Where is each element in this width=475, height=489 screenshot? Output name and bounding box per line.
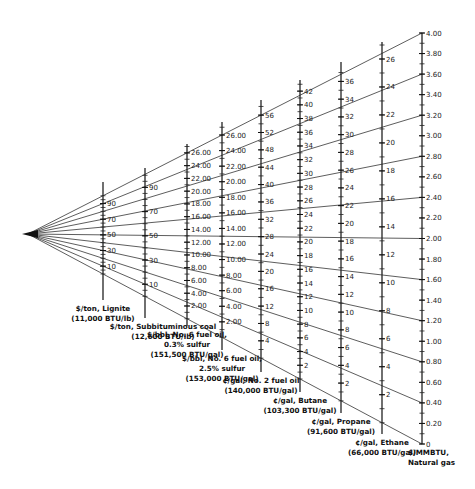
svg-text:¢/gal, Ethane: ¢/gal, Ethane: [355, 438, 409, 447]
tick-label: 8: [265, 320, 269, 328]
svg-text:¢/gal, Butane: ¢/gal, Butane: [273, 396, 327, 405]
tick-label: 2.60: [426, 173, 442, 181]
tick-label: 2: [386, 391, 390, 399]
tick-label: 26: [304, 197, 313, 205]
tick-label: 36: [345, 78, 354, 86]
tick-label: 32: [265, 216, 274, 224]
tick-label: 24: [386, 83, 395, 91]
svg-text:$/bbl, No. 6 fuel oil,: $/bbl, No. 6 fuel oil,: [147, 330, 227, 339]
price-ray: [28, 115, 422, 234]
tick-label: 34: [304, 142, 313, 150]
svg-text:$/ton, Lignite: $/ton, Lignite: [76, 304, 131, 313]
tick-label: 1.20: [426, 317, 442, 325]
tick-label: 2: [345, 380, 349, 388]
scale-subbituminous-coal: 1030507090: [142, 168, 158, 318]
tick-label: 10: [386, 279, 395, 287]
tick-label: 3.20: [426, 112, 442, 120]
tick-label: 8: [386, 307, 390, 315]
tick-label: 2.00: [191, 302, 207, 310]
scale-title-ethane: ¢/gal, Ethane(66,000 BTU/gal): [348, 438, 416, 457]
tick-label: 30: [345, 131, 354, 139]
tick-label: 20: [304, 238, 313, 246]
price-ray: [28, 234, 422, 280]
tick-label: 20.00: [191, 188, 211, 196]
tick-label: 2.20: [426, 214, 442, 222]
svg-text:(140,000 BTU/gal): (140,000 BTU/gal): [224, 386, 297, 395]
tick-label: 10: [149, 281, 158, 289]
tick-label: 10.00: [226, 256, 246, 264]
tick-label: 16: [386, 195, 395, 203]
tick-label: 16: [304, 266, 313, 274]
tick-label: 8.00: [191, 264, 207, 272]
tick-label: 30: [149, 257, 158, 265]
svg-text:(103,300 BTU/gal): (103,300 BTU/gal): [263, 406, 336, 415]
tick-label: 6.00: [191, 277, 207, 285]
tick-label: 34: [345, 96, 354, 104]
price-ray: [28, 234, 422, 444]
price-ray: [28, 234, 422, 362]
tick-label: 1.00: [426, 338, 442, 346]
tick-label: 20: [386, 139, 395, 147]
tick-label: 0.80: [426, 358, 442, 366]
tick-label: 0.40: [426, 399, 442, 407]
tick-label: 26: [386, 56, 395, 64]
tick-label: 2.40: [426, 194, 442, 202]
svg-text:$/MMBTU,: $/MMBTU,: [408, 448, 449, 457]
tick-label: 0.60: [426, 379, 442, 387]
tick-label: 40: [304, 101, 313, 109]
scale-title-no2-fuel-oil: ¢/gal, No. 2 fuel oil(140,000 BTU/gal): [223, 376, 300, 395]
tick-label: 2.00: [226, 318, 242, 326]
tick-label: 18: [386, 167, 395, 175]
tick-label: 14.00: [191, 226, 211, 234]
scale-title-propane: ¢/gal, Propane(91,600 BTU/gal): [307, 417, 375, 436]
tick-label: 90: [107, 200, 116, 208]
tick-label: 28: [304, 184, 313, 192]
svg-text:Natural gas: Natural gas: [408, 458, 455, 467]
tick-label: 90: [149, 184, 158, 192]
tick-label: 8: [345, 326, 349, 334]
tick-label: 18: [304, 252, 313, 260]
svg-text:$/bbl, No. 6 fuel oil,: $/bbl, No. 6 fuel oil,: [182, 354, 262, 363]
tick-label: 16.00: [191, 213, 211, 221]
tick-label: 4: [265, 337, 270, 345]
tick-label: 22: [304, 225, 313, 233]
tick-label: 8: [304, 321, 308, 329]
scale-butane: 24681012141618202224262830323436384042: [297, 80, 313, 392]
tick-label: 18.00: [191, 200, 211, 208]
tick-label: 42: [304, 88, 313, 96]
svg-text:¢/gal, No. 2 fuel oil: ¢/gal, No. 2 fuel oil: [223, 376, 300, 385]
tick-label: 1.40: [426, 297, 442, 305]
tick-label: 10.00: [191, 251, 211, 259]
tick-label: 1.80: [426, 256, 442, 264]
tick-label: 26.00: [191, 149, 211, 157]
tick-label: 12.00: [226, 240, 246, 248]
tick-label: 70: [107, 216, 116, 224]
tick-label: 16: [265, 285, 274, 293]
tick-label: 56: [265, 112, 274, 120]
tick-label: 3.40: [426, 91, 442, 99]
tick-label: 28: [345, 149, 354, 157]
tick-label: 26: [345, 167, 354, 175]
tick-label: 12.00: [191, 239, 211, 247]
tick-label: 4: [345, 362, 350, 370]
tick-label: 16: [345, 255, 354, 263]
price-ray: [28, 156, 422, 234]
tick-label: 24: [265, 251, 274, 259]
tick-label: 6: [386, 335, 391, 343]
tick-label: 30: [107, 247, 116, 255]
tick-label: 24.00: [191, 162, 211, 170]
tick-label: 6.00: [226, 287, 242, 295]
scale-propane: 24681012141618202224262830323436: [338, 62, 354, 413]
tick-label: 0.20: [426, 420, 442, 428]
tick-label: 2: [304, 362, 308, 370]
tick-label: 10: [345, 309, 354, 317]
svg-text:(66,000 BTU/gal): (66,000 BTU/gal): [348, 448, 416, 457]
tick-label: 3.60: [426, 71, 442, 79]
tick-label: 4.00: [426, 30, 442, 38]
tick-label: 6: [345, 344, 350, 352]
scale-no6-fuel-oil-03: 2.004.006.008.0010.0012.0014.0016.0018.0…: [184, 144, 211, 326]
scale-title-lignite: $/ton, Lignite(11,000 BTU/lb): [71, 304, 134, 323]
tick-label: 14: [345, 273, 354, 281]
origin-point: [22, 230, 38, 238]
tick-label: 14: [386, 223, 395, 231]
